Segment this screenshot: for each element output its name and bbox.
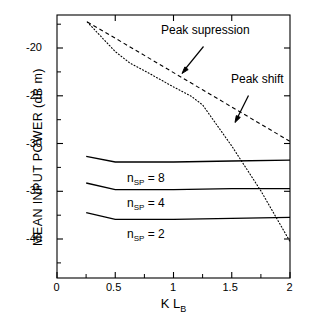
x-tick-label-0: 0 [54, 281, 60, 293]
curve-label-nsp-8: nSP = 8 [127, 171, 165, 187]
y-tick-label-minus25: -25 [26, 89, 42, 101]
arrow-line-peak-supression [184, 47, 204, 71]
arrow-head-peak-supression [182, 67, 188, 74]
annotation-peak-supression: Peak supression [161, 23, 250, 37]
nsp8-value: = 8 [148, 171, 165, 185]
x-axis-top-ticks [115, 15, 232, 21]
y-tick-label-minus40: -40 [26, 232, 42, 244]
nsp2-symbol: n [127, 227, 134, 241]
annotation-peak-shift: Peak shift [231, 72, 284, 86]
x-tick-label-0p5: 0.5 [106, 281, 121, 293]
x-tick-label-1p5: 1.5 [223, 281, 238, 293]
nsp4-symbol: n [127, 196, 134, 210]
nsp8-subscript: SP [134, 178, 145, 187]
x-tick-label-1: 1 [170, 281, 176, 293]
y-axis-major-ticks [57, 48, 63, 239]
series-nsp-8 [86, 156, 290, 162]
nsp2-value: = 2 [148, 227, 165, 241]
nsp4-value: = 4 [148, 196, 165, 210]
y-tick-label-minus20: -20 [26, 41, 42, 53]
curve-label-nsp-4: nSP = 4 [127, 196, 165, 212]
x-axis-title: K LB [57, 296, 290, 314]
figure: MEAN INPUT POWER (dB m) K LB -20 -25 -30… [0, 0, 315, 330]
y-axis-right-ticks [284, 48, 290, 239]
series-peak-shift [87, 22, 290, 242]
series-nsp-4 [86, 183, 290, 190]
y-tick-label-minus35: -35 [26, 184, 42, 196]
y-axis-title: MEAN INPUT POWER (dB m) [31, 27, 45, 287]
x-tick-label-2: 2 [287, 281, 293, 293]
plot-frame [57, 15, 290, 278]
series-nsp-2 [86, 213, 290, 220]
arrow-head-peak-shift [235, 116, 240, 123]
nsp4-subscript: SP [134, 203, 145, 212]
plot-canvas [0, 0, 315, 330]
x-axis-major-ticks [57, 272, 290, 278]
y-tick-label-minus30: -30 [26, 137, 42, 149]
nsp2-subscript: SP [134, 234, 145, 243]
x-axis-title-subscript: B [180, 304, 186, 314]
x-axis-title-main: K L [161, 296, 181, 311]
curve-label-nsp-2: nSP = 2 [127, 227, 165, 243]
nsp8-symbol: n [127, 171, 134, 185]
